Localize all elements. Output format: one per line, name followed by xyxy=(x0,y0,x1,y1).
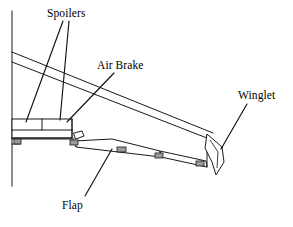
leader-line-spoilers-a xyxy=(26,21,63,122)
hinge-fairing xyxy=(70,140,78,145)
winglet-shape xyxy=(205,134,224,175)
wing-drawing-svg xyxy=(0,0,293,227)
wing-diagram: Spoilers Air Brake Winglet Flap xyxy=(0,0,293,227)
hinge-fairing xyxy=(14,139,21,144)
leader-line-winglet xyxy=(221,104,247,149)
air-brake-hinge-detail xyxy=(74,131,84,139)
label-winglet: Winglet xyxy=(238,89,275,101)
label-air-brake: Air Brake xyxy=(97,59,144,71)
label-spoilers: Spoilers xyxy=(47,7,86,19)
leader-line-flap xyxy=(85,149,112,196)
leader-line-air-brake xyxy=(67,73,114,122)
leader-line-spoilers-b xyxy=(60,21,69,120)
hinge-fairing xyxy=(155,153,163,158)
label-flap: Flap xyxy=(62,199,83,211)
hinge-fairing xyxy=(196,161,204,166)
hinge-fairing xyxy=(117,147,126,152)
